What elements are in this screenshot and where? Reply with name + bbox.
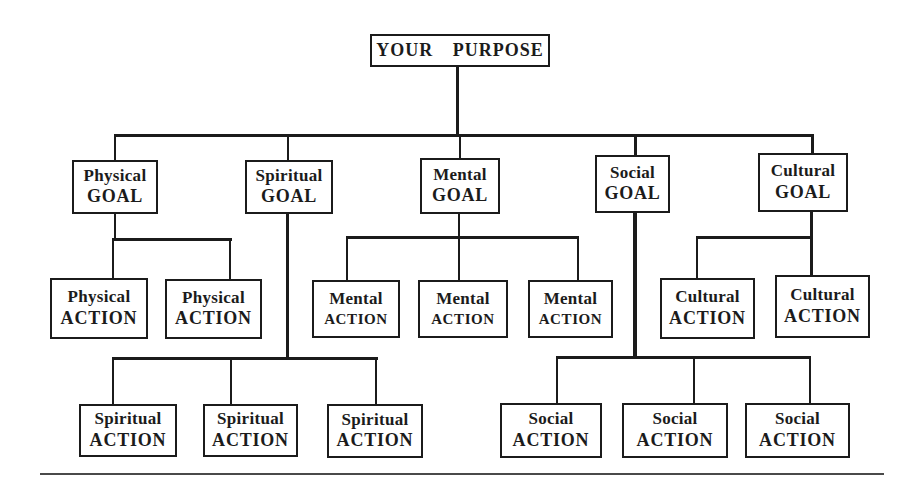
connector-physical-feeder <box>114 214 116 240</box>
action-box-social-2: Social ACTION <box>622 403 728 458</box>
bottom-rule <box>40 473 884 475</box>
action-name-label: Social <box>775 409 820 430</box>
connector-cultural-subbus <box>696 236 813 239</box>
action-type-label: ACTION <box>513 430 590 452</box>
connector-cultural-feeder <box>810 212 813 275</box>
connector-drop-physical <box>114 137 116 160</box>
action-box-spiritual-1: Spiritual ACTION <box>79 404 177 457</box>
action-name-label: Cultural <box>790 285 855 306</box>
goal-name-label: Social <box>610 163 655 184</box>
connector-social-subbus <box>556 356 811 359</box>
connector-mental-subbus <box>346 236 579 239</box>
action-type-label: ACTION <box>61 308 138 330</box>
action-name-label: Mental <box>544 289 598 310</box>
connector-root-drop <box>456 66 459 136</box>
action-box-spiritual-3: Spiritual ACTION <box>327 404 423 458</box>
action-name-label: Spiritual <box>217 409 284 430</box>
connector-physical-drop-1 <box>112 241 114 278</box>
action-type-label: ACTION <box>637 430 714 452</box>
action-name-label: Spiritual <box>342 410 409 431</box>
action-type-label: ACTION <box>90 430 167 452</box>
connector-physical-drop-2 <box>229 241 231 279</box>
connector-drop-mental <box>459 137 461 158</box>
connector-mental-feeder <box>458 214 460 280</box>
action-box-mental-1: Mental ACTION <box>312 280 400 338</box>
connector-mental-drop-3 <box>577 239 579 280</box>
goal-type-label: GOAL <box>775 182 831 204</box>
action-box-spiritual-2: Spiritual ACTION <box>203 404 298 457</box>
connector-social-feeder <box>633 213 637 358</box>
action-box-mental-2: Mental ACTION <box>418 280 508 338</box>
action-type-label: ACTION <box>431 310 495 328</box>
purpose-goal-action-diagram: YOUR PURPOSE Physical GOAL Spiritual GOA… <box>0 0 922 504</box>
goal-name-label: Cultural <box>771 161 836 182</box>
goal-type-label: GOAL <box>604 183 660 205</box>
connector-drop-social <box>634 137 637 155</box>
purpose-box: YOUR PURPOSE <box>370 34 550 67</box>
connector-cultural-drop-1 <box>696 239 698 278</box>
action-name-label: Spiritual <box>95 409 162 430</box>
action-box-physical-1: Physical ACTION <box>50 278 148 339</box>
connector-drop-cultural <box>811 137 814 153</box>
action-name-label: Mental <box>436 289 490 310</box>
goal-name-label: Mental <box>433 165 487 186</box>
action-name-label: Social <box>652 409 697 430</box>
connector-spiritual-drop-3 <box>375 360 377 404</box>
connector-main-bus <box>114 134 814 137</box>
action-type-label: ACTION <box>669 308 746 330</box>
goal-type-label: GOAL <box>261 186 317 208</box>
connector-spiritual-feeder <box>286 214 289 360</box>
action-type-label: ACTION <box>212 430 289 452</box>
goal-box-cultural: Cultural GOAL <box>758 153 848 212</box>
action-box-cultural-2: Cultural ACTION <box>775 275 870 338</box>
purpose-label: YOUR PURPOSE <box>376 40 544 62</box>
action-name-label: Physical <box>68 287 131 308</box>
connector-spiritual-drop-1 <box>112 360 114 404</box>
goal-name-label: Physical <box>84 166 147 187</box>
goal-box-physical: Physical GOAL <box>72 160 158 214</box>
connector-social-drop-1 <box>556 359 558 403</box>
action-type-label: ACTION <box>539 310 603 328</box>
action-box-social-1: Social ACTION <box>500 403 602 458</box>
action-box-cultural-1: Cultural ACTION <box>660 278 755 339</box>
action-type-label: ACTION <box>324 310 388 328</box>
action-name-label: Mental <box>329 289 383 310</box>
connector-social-drop-3 <box>809 359 811 403</box>
goal-type-label: GOAL <box>432 185 488 207</box>
connector-physical-subbus <box>112 238 232 241</box>
action-type-label: ACTION <box>337 430 414 452</box>
action-box-physical-2: Physical ACTION <box>165 279 262 339</box>
goal-box-social: Social GOAL <box>595 155 670 213</box>
action-type-label: ACTION <box>175 308 252 330</box>
connector-drop-spiritual <box>287 137 289 160</box>
goal-box-spiritual: Spiritual GOAL <box>245 160 333 214</box>
connector-social-drop-2 <box>693 359 695 403</box>
connector-spiritual-subbus <box>112 357 378 360</box>
goal-box-mental: Mental GOAL <box>420 158 500 214</box>
action-name-label: Physical <box>182 288 245 309</box>
action-box-social-3: Social ACTION <box>745 403 850 458</box>
connector-spiritual-drop-2 <box>230 360 232 404</box>
goal-name-label: Spiritual <box>256 166 323 187</box>
action-box-mental-3: Mental ACTION <box>528 280 613 338</box>
action-name-label: Social <box>528 409 573 430</box>
goal-type-label: GOAL <box>87 186 143 208</box>
action-type-label: ACTION <box>759 430 836 452</box>
connector-mental-drop-1 <box>346 239 348 280</box>
action-type-label: ACTION <box>784 306 861 328</box>
action-name-label: Cultural <box>675 287 740 308</box>
